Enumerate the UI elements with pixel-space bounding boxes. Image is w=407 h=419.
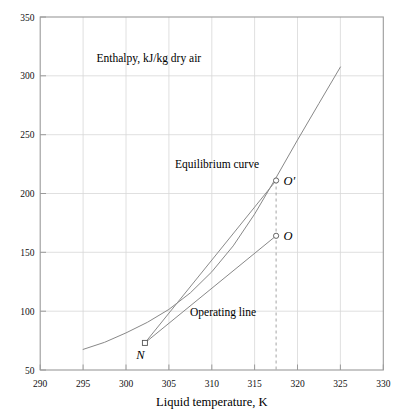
x-tick-label: 290 bbox=[33, 379, 48, 389]
point-label-n: N bbox=[135, 348, 145, 362]
y-tick-label: 350 bbox=[20, 13, 35, 23]
x-axis-tick-labels: 290 295 300 305 310 315 320 325 330 bbox=[33, 379, 391, 389]
operating-line-label: Operating line bbox=[190, 306, 256, 319]
marker-point-n bbox=[142, 340, 147, 345]
y-tick-label: 150 bbox=[20, 248, 35, 258]
point-label-o: O bbox=[284, 229, 293, 243]
marker-point-o bbox=[274, 233, 279, 238]
y-tick-label: 100 bbox=[20, 307, 35, 317]
x-tick-label: 320 bbox=[290, 379, 305, 389]
chart-figure: 350 300 250 200 150 100 50 290 295 300 3… bbox=[0, 0, 407, 419]
enthalpy-vs-liquid-temperature-chart: 350 300 250 200 150 100 50 290 295 300 3… bbox=[0, 0, 407, 419]
chart-background bbox=[0, 0, 407, 419]
marker-point-o-prime bbox=[274, 178, 279, 183]
y-tick-label: 300 bbox=[20, 71, 35, 81]
point-label-o-prime: O′ bbox=[284, 174, 296, 188]
y-tick-label: 200 bbox=[20, 189, 35, 199]
x-tick-label: 295 bbox=[76, 379, 91, 389]
enthalpy-axis-label: Enthalpy, kJ/kg dry air bbox=[97, 52, 202, 65]
x-tick-label: 315 bbox=[247, 379, 262, 389]
x-tick-label: 305 bbox=[162, 379, 177, 389]
x-axis-title: Liquid temperature, K bbox=[156, 395, 267, 409]
x-tick-label: 330 bbox=[376, 379, 391, 389]
y-tick-label: 250 bbox=[20, 130, 35, 140]
y-tick-label: 50 bbox=[25, 366, 35, 376]
equilibrium-curve-label: Equilibrium curve bbox=[175, 158, 259, 171]
x-tick-label: 325 bbox=[333, 379, 348, 389]
x-tick-label: 300 bbox=[119, 379, 134, 389]
x-tick-label: 310 bbox=[205, 379, 220, 389]
